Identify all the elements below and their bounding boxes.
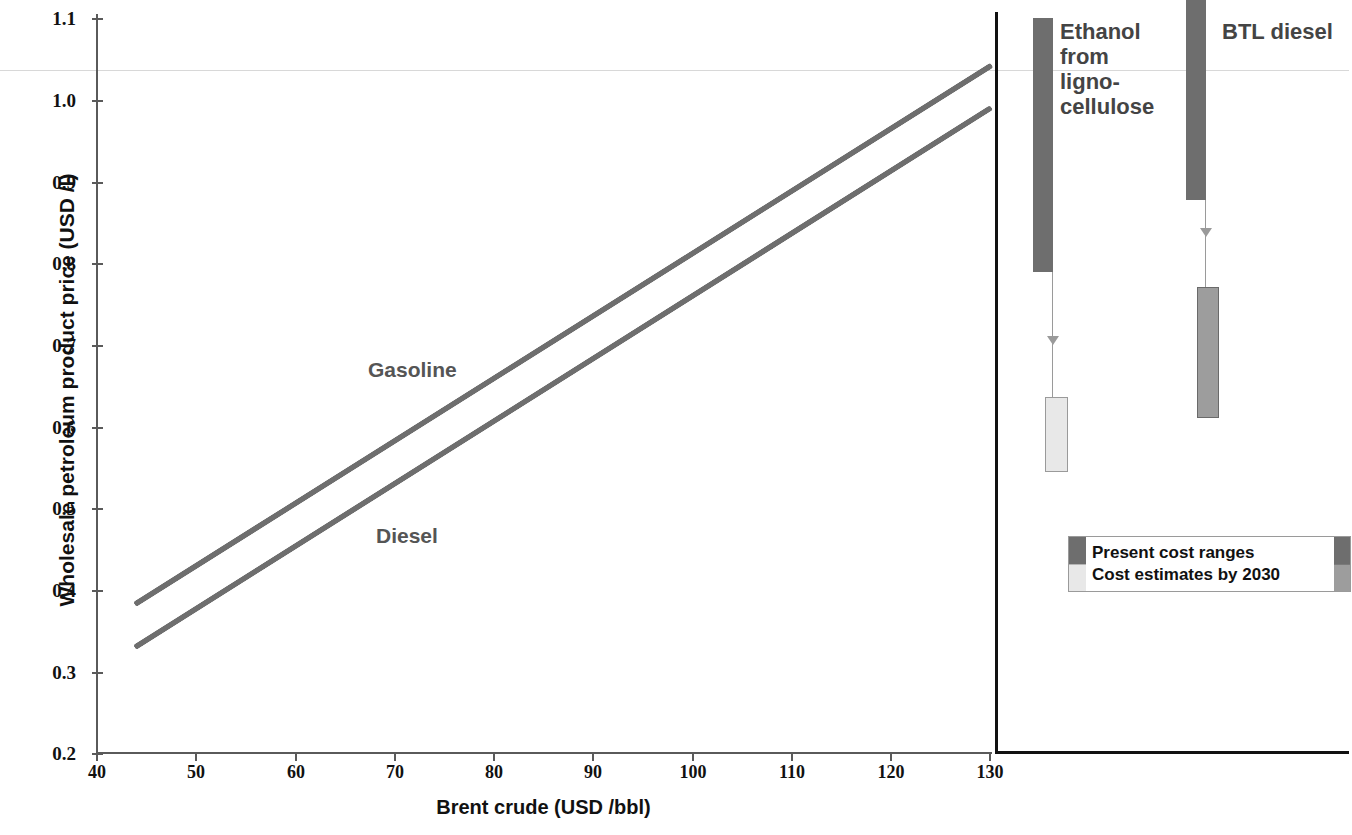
panel-divider-bottom [995,751,1349,754]
column-label-ethanol: Ethanol from ligno- cellulose [1060,20,1180,119]
x-tick-label-130: 130 [960,762,1020,783]
x-tick-label-110: 110 [762,762,822,783]
x-tick-label-60: 60 [266,762,326,783]
x-tick-mark-60 [295,752,297,761]
legend-swatches-left [1069,537,1086,591]
column-label-ethanol-line1: Ethanol [1060,20,1180,45]
y-tick-label-9: 0.3 [20,662,76,684]
series-label-gasoline: Gasoline [368,358,457,382]
column-label-btl: BTL diesel [1222,20,1352,45]
x-tick-label-120: 120 [861,762,921,783]
y-tick-label-1: 1.1 [20,8,76,30]
x-tick-mark-110 [791,752,793,761]
legend-swatches-right [1334,537,1350,591]
arrow-stem-btl-lower [1205,237,1206,288]
panel-divider-vertical [995,12,998,754]
bar-ethanol-present-cost [1033,18,1053,272]
y-tick-label-8: 0.4 [20,580,76,602]
y-tick-mark-2 [92,100,103,102]
y-tick-mark-3 [92,182,103,184]
legend-swatch-present-right [1334,537,1350,564]
x-tick-mark-80 [493,752,495,761]
x-tick-mark-130 [989,752,991,761]
y-tick-label-2: 1.0 [20,90,76,112]
column-label-ethanol-line3: ligno- [1060,70,1180,95]
y-axis-line [96,14,98,754]
x-tick-label-100: 100 [663,762,723,783]
legend-swatch-present-left [1069,537,1086,564]
y-tick-mark-8 [92,590,103,592]
arrow-head-ethanol-icon [1047,336,1059,345]
y-tick-label-7: 0.5 [20,498,76,520]
x-tick-label-50: 50 [166,762,226,783]
bar-ethanol-cost-2030 [1045,397,1068,472]
column-label-ethanol-line2: from [1060,45,1180,70]
series-label-diesel: Diesel [376,524,438,548]
legend-swatch-2030-right [1334,564,1350,592]
x-tick-label-40: 40 [67,762,127,783]
y-tick-mark-5 [92,345,103,347]
y-tick-label-4: 0.8 [20,253,76,275]
y-tick-mark-6 [92,427,103,429]
y-tick-mark-4 [92,263,103,265]
legend-swatch-2030-left [1069,564,1086,592]
series-line-gasoline [133,62,994,607]
x-tick-mark-40 [96,752,98,761]
x-tick-mark-70 [394,752,396,761]
y-tick-mark-1 [92,18,103,20]
y-tick-mark-7 [92,508,103,510]
x-tick-label-90: 90 [563,762,623,783]
y-tick-mark-9 [92,672,103,674]
y-tick-label-6: 0.6 [20,417,76,439]
x-tick-mark-90 [592,752,594,761]
bar-btl-present-cost [1186,0,1206,200]
column-label-ethanol-line4: cellulose [1060,95,1180,120]
arrow-head-btl-icon [1200,228,1212,237]
legend-label-present: Present cost ranges [1092,542,1280,564]
legend-rows: Present cost ranges Cost estimates by 20… [1086,537,1286,591]
x-tick-label-70: 70 [365,762,425,783]
bar-btl-cost-2030 [1197,287,1219,418]
y-tick-label-5: 0.7 [20,335,76,357]
x-tick-mark-120 [890,752,892,761]
x-axis-title: Brent crude (USD /bbl) [97,796,990,819]
x-tick-label-80: 80 [464,762,524,783]
x-tick-mark-50 [195,752,197,761]
y-tick-label-3: 0.9 [20,172,76,194]
arrow-stem-ethanol-lower [1052,345,1053,398]
x-axis-line [96,752,992,754]
legend-label-2030: Cost estimates by 2030 [1092,564,1280,586]
x-tick-mark-100 [692,752,694,761]
series-line-diesel [133,105,993,650]
legend: Present cost ranges Cost estimates by 20… [1068,536,1351,592]
